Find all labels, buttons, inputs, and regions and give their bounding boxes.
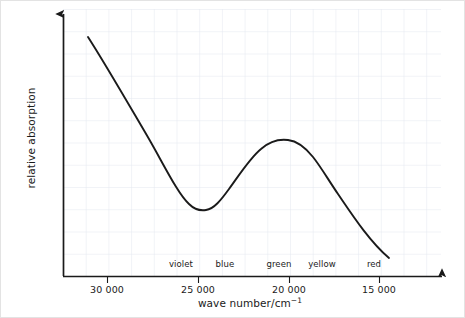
x-axis-title-text: wave number/cm	[198, 297, 291, 309]
x-tick-label-15000: 15 000	[362, 284, 396, 295]
band-label-violet: violet	[169, 259, 193, 269]
x-tick-label-25000: 25 000	[181, 284, 215, 295]
band-label-red: red	[367, 259, 381, 269]
y-axis-title: relative absorption	[25, 88, 37, 189]
band-label-yellow: yellow	[308, 259, 336, 269]
band-label-green: green	[266, 259, 291, 269]
chart-figure: 30 000 25 000 20 000 15 000 violet blue …	[0, 0, 465, 318]
x-tick-label-30000: 30 000	[90, 284, 124, 295]
x-axis-title-exponent: −1	[291, 296, 302, 305]
chart-gridlines	[63, 9, 441, 276]
band-label-blue: blue	[216, 259, 235, 269]
x-axis-title: wave number/cm−1	[198, 297, 302, 309]
x-tick-label-20000: 20 000	[272, 284, 306, 295]
chart-plot-area	[1, 1, 465, 318]
